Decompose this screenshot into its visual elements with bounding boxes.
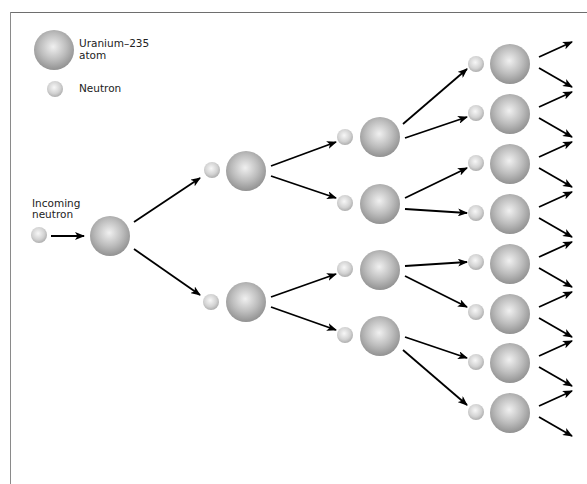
output-arrow-down (539, 417, 572, 436)
uranium-atom-icon (490, 393, 530, 433)
uranium-atom-icon (490, 244, 530, 284)
neutron-path-arrow (271, 142, 336, 166)
neutron-icon (468, 254, 484, 270)
neutron-path-arrow (403, 350, 467, 405)
legend-atom-icon (34, 30, 74, 70)
neutron-icon (468, 56, 484, 72)
neutron-path-arrow (405, 209, 467, 213)
neutron-icon (468, 105, 484, 121)
neutron-path-arrow (134, 178, 200, 222)
uranium-atom-icon (490, 194, 530, 234)
uranium-atoms (90, 44, 530, 433)
neutron-icon (337, 195, 353, 211)
neutron-icon (337, 327, 353, 343)
uranium-atom-icon (360, 117, 400, 157)
neutron-icon (468, 404, 484, 420)
output-arrow-down (539, 268, 572, 287)
uranium-atom-icon (226, 151, 266, 191)
neutron-icon (337, 261, 353, 277)
neutron-path-arrow (271, 274, 336, 297)
legend-neutron-icon (47, 81, 63, 97)
fission-chain-diagram: Uranium–235 atom Neutron Incoming neutro… (0, 0, 587, 484)
chain-reaction-graphic (0, 0, 587, 484)
output-arrow-down (539, 367, 572, 386)
neutron-icon (204, 162, 220, 178)
neutron-path-arrow (405, 276, 467, 307)
neutron-path-arrow (134, 249, 200, 295)
output-arrow-up (539, 292, 572, 307)
legend-neutron-label: Neutron (79, 83, 121, 94)
output-arrow-up (539, 192, 572, 207)
legend-atom-label-line1: Uranium–235 (79, 38, 149, 49)
neutron-icon (468, 205, 484, 221)
uranium-atom-icon (490, 94, 530, 134)
output-arrow-up (539, 242, 572, 257)
output-arrow-up (539, 92, 572, 107)
legend (34, 30, 74, 97)
neutron-icon (468, 354, 484, 370)
incoming-neutron-label-line2: neutron (32, 209, 73, 220)
neutron-path-arrow (403, 69, 467, 124)
incoming-neutron-icon (31, 227, 47, 243)
uranium-atom-icon (490, 44, 530, 84)
neutron-path-arrow (405, 168, 467, 198)
uranium-atom-icon (360, 250, 400, 290)
output-arrow-down (539, 118, 572, 137)
neutron-path-arrow (405, 117, 467, 138)
uranium-atom-icon (360, 316, 400, 356)
uranium-atom-icon (90, 216, 130, 256)
neutron-path-arrow (271, 307, 336, 330)
neutron-path-arrow (271, 176, 336, 198)
output-arrow-up (539, 391, 572, 406)
uranium-atom-icon (490, 294, 530, 334)
output-arrow-up (539, 142, 572, 157)
neutron-path-arrow (405, 337, 467, 358)
legend-atom-label-line2: atom (79, 50, 106, 61)
uranium-atom-icon (490, 343, 530, 383)
neutron-icon (468, 155, 484, 171)
neutron-icon (203, 294, 219, 310)
uranium-atom-icon (490, 144, 530, 184)
output-arrow-up (539, 341, 572, 356)
output-arrow-down (539, 318, 572, 337)
uranium-atom-icon (360, 184, 400, 224)
output-arrow-down (539, 168, 572, 187)
output-arrow-down (539, 68, 572, 87)
neutron-icon (337, 129, 353, 145)
output-arrow-up (539, 42, 572, 57)
neutron-path-arrow (405, 262, 467, 266)
neutron-icon (468, 304, 484, 320)
output-arrow-down (539, 218, 572, 237)
uranium-atom-icon (226, 282, 266, 322)
